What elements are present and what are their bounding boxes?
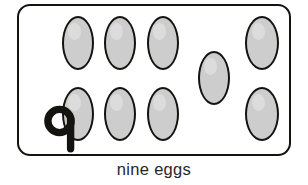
egg-9 (245, 87, 279, 141)
egg-4 (245, 16, 279, 70)
worksheet-caption: nine eggs (0, 160, 308, 179)
egg-2 (104, 16, 136, 70)
counting-worksheet-card: nine eggs (0, 0, 308, 185)
handwritten-nine-glyph-icon (44, 104, 80, 154)
egg-7 (104, 87, 136, 141)
egg-carton-box (17, 4, 291, 156)
egg-8 (147, 87, 179, 141)
egg-3 (147, 16, 179, 70)
egg-5 (198, 51, 230, 105)
egg-1 (62, 16, 94, 70)
